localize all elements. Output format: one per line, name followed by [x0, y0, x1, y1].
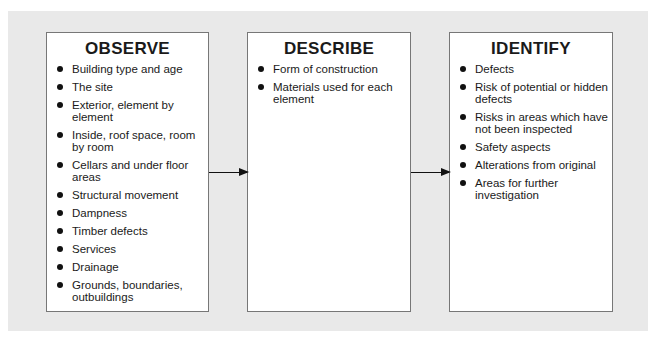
list-item: Areas for further investigation	[460, 177, 608, 201]
identify-box: IDENTIFY DefectsRisk of potential or hid…	[449, 32, 613, 312]
list-item: Exterior, element by element	[57, 99, 204, 123]
list-item-text: Areas for further investigation	[475, 177, 558, 201]
list-item: Services	[57, 243, 204, 255]
list-item: Structural movement	[57, 189, 204, 201]
list-item: Timber defects	[57, 225, 204, 237]
bullet-icon	[57, 162, 63, 168]
list-item-text: Timber defects	[72, 225, 148, 237]
list-item-text: Dampness	[72, 207, 127, 219]
list-item: Materials used for each element	[258, 81, 406, 105]
list-item-text: Defects	[475, 63, 514, 75]
bullet-icon	[57, 228, 63, 234]
list-item-text: Structural movement	[72, 189, 178, 201]
list-item-text: Materials used for each element	[273, 81, 393, 105]
arrowhead-icon	[239, 168, 249, 176]
list-item-text: Cellars and under floor areas	[72, 159, 188, 183]
list-item: Alterations from original	[460, 159, 608, 171]
bullet-icon	[460, 162, 466, 168]
box-title: IDENTIFY	[450, 39, 612, 59]
list-item: Inside, roof space, room by room	[57, 129, 204, 153]
list-item-text: Exterior, element by element	[72, 99, 174, 123]
list-item-text: Inside, roof space, room by room	[72, 129, 195, 153]
bullet-icon	[460, 66, 466, 72]
bullet-icon	[57, 192, 63, 198]
bullet-icon	[57, 132, 63, 138]
bullet-icon	[57, 102, 63, 108]
bullet-icon	[57, 246, 63, 252]
bullet-icon	[57, 84, 63, 90]
list-item-text: Risks in areas which have not been inspe…	[475, 111, 608, 135]
list-item-text: The site	[72, 81, 113, 93]
list-item: Risk of potential or hidden defects	[460, 81, 608, 105]
list-item-text: Risk of potential or hidden defects	[475, 81, 608, 105]
arrowhead-icon	[441, 168, 451, 176]
bullet-icon	[57, 66, 63, 72]
list-item: Defects	[460, 63, 608, 75]
arrow-observe-to-describe	[209, 172, 247, 173]
bullet-icon	[460, 144, 466, 150]
list-item: Form of construction	[258, 63, 406, 75]
bullet-icon	[460, 84, 466, 90]
list-item-text: Building type and age	[72, 63, 183, 75]
box-title: DESCRIBE	[248, 39, 410, 59]
bullet-icon	[460, 180, 466, 186]
list-item: Safety aspects	[460, 141, 608, 153]
box-title: OBSERVE	[47, 39, 208, 59]
list-item-text: Alterations from original	[475, 159, 596, 171]
list-item: The site	[57, 81, 204, 93]
bullet-icon	[57, 210, 63, 216]
identify-list: DefectsRisk of potential or hidden defec…	[450, 63, 612, 201]
list-item-text: Grounds, boundaries, outbuildings	[72, 279, 183, 303]
bullet-icon	[57, 264, 63, 270]
bullet-icon	[460, 114, 466, 120]
describe-box: DESCRIBE Form of constructionMaterials u…	[247, 32, 411, 312]
list-item-text: Form of construction	[273, 63, 378, 75]
list-item: Cellars and under floor areas	[57, 159, 204, 183]
observe-box: OBSERVE Building type and ageThe siteExt…	[46, 32, 209, 312]
list-item: Risks in areas which have not been inspe…	[460, 111, 608, 135]
bullet-icon	[258, 84, 264, 90]
describe-list: Form of constructionMaterials used for e…	[248, 63, 410, 105]
list-item: Dampness	[57, 207, 204, 219]
list-item-text: Services	[72, 243, 116, 255]
list-item: Drainage	[57, 261, 204, 273]
list-item: Building type and age	[57, 63, 204, 75]
bullet-icon	[57, 282, 63, 288]
arrow-describe-to-identify	[411, 172, 449, 173]
list-item: Grounds, boundaries, outbuildings	[57, 279, 204, 303]
list-item-text: Safety aspects	[475, 141, 550, 153]
bullet-icon	[258, 66, 264, 72]
observe-list: Building type and ageThe siteExterior, e…	[47, 63, 208, 303]
list-item-text: Drainage	[72, 261, 119, 273]
